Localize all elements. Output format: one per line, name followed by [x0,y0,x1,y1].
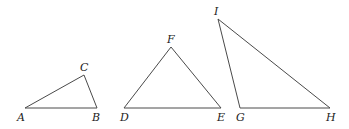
triangle-ghi: GHI [213,5,336,124]
triangle-outline [218,19,330,108]
triangle-diagram: ABCDEFGHI [0,0,349,129]
vertex-label-e: E [216,111,225,124]
vertex-label-i: I [213,5,219,18]
vertex-label-g: G [236,111,245,124]
vertex-label-b: B [91,111,100,124]
vertex-label-h: H [325,111,336,124]
triangle-abc: ABC [16,61,100,124]
triangle-def: DEF [119,33,225,124]
triangle-outline [25,75,97,108]
diagram-canvas: ABCDEFGHI [0,0,349,129]
vertex-label-c: C [80,61,89,74]
triangle-outline [124,47,221,108]
vertex-label-a: A [16,111,25,124]
vertex-label-d: D [119,111,129,124]
vertex-label-f: F [166,33,175,46]
